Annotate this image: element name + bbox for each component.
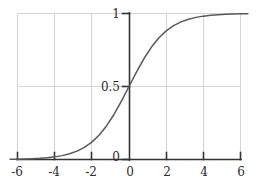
- x-tick-label-6: 6: [237, 166, 245, 178]
- x-tick-label--2: -2: [85, 166, 97, 178]
- x-tick-label-4: 4: [200, 166, 208, 178]
- x-tick-label--6: -6: [11, 166, 23, 178]
- x-tick-label--4: -4: [48, 166, 60, 178]
- sigmoid-chart: -6 -4 -2 0 2 4 6 1 0.5 0: [0, 0, 256, 188]
- y-tick-label-0.5: 0.5: [94, 81, 120, 93]
- y-tick-label-1: 1: [94, 8, 120, 20]
- x-tick-label-0: 0: [126, 166, 134, 178]
- y-tick-label-0: 0: [94, 151, 120, 163]
- plot-canvas: [0, 0, 256, 188]
- x-tick-label-2: 2: [163, 166, 171, 178]
